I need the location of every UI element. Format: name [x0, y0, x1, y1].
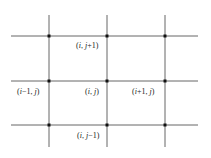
node-point [164, 35, 167, 38]
label-west-node: (i−1, j) [17, 87, 39, 96]
node-point [164, 80, 167, 83]
node-point [164, 124, 167, 127]
node-point [106, 124, 109, 127]
label-south-node: (i, j−1) [77, 131, 99, 140]
grid-diagram: (i, j+1) (i−1, j) (i, j) (i+1, j) (i, j−… [0, 0, 211, 158]
node-point [48, 35, 51, 38]
label-north-node: (i, j+1) [76, 41, 98, 50]
node-point [48, 124, 51, 127]
node-point [106, 80, 109, 83]
node-point [106, 35, 109, 38]
label-center-node: (i, j) [85, 87, 99, 96]
label-east-node: (i+1, j) [132, 87, 154, 96]
grid-svg [0, 0, 211, 158]
node-point [48, 80, 51, 83]
